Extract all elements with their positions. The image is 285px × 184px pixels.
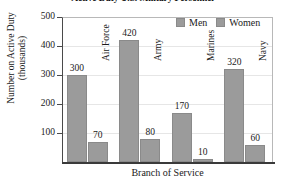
bar-army-women[interactable] <box>140 139 160 162</box>
category-label-air-force: Air Force <box>101 24 111 61</box>
chart-title: Active Duty U.S. Military Personnel <box>0 0 285 3</box>
bars-layer <box>63 17 273 162</box>
bar-navy-men[interactable] <box>224 69 244 162</box>
category-label-army: Army <box>153 39 163 61</box>
value-label-army-men: 420 <box>122 28 136 38</box>
legend-item-women[interactable]: Women <box>216 17 260 28</box>
legend-label-men: Men <box>189 17 207 28</box>
chart-figure: Active Duty U.S. Military Personnel Numb… <box>0 0 285 184</box>
y-tick-label: 500 <box>0 11 62 22</box>
bar-air-force-women[interactable] <box>88 142 108 162</box>
legend-label-women: Women <box>229 17 260 28</box>
bar-marines-men[interactable] <box>172 113 192 162</box>
category-label-navy: Navy <box>258 40 268 61</box>
bar-army-men[interactable] <box>119 40 139 162</box>
value-label-marines-men: 170 <box>175 101 189 111</box>
bar-marines-women[interactable] <box>193 159 213 162</box>
y-tick-value: 200 <box>41 98 62 108</box>
value-label-air-force-women: 70 <box>93 130 103 140</box>
value-label-air-force-men: 300 <box>70 63 84 73</box>
legend-swatch-women <box>216 18 225 27</box>
y-tick-value: 500 <box>41 11 62 21</box>
value-label-navy-men: 320 <box>227 57 241 67</box>
y-tick-label: 200 <box>0 98 62 109</box>
x-axis-line <box>62 162 275 164</box>
chart-legend: Men Women <box>176 17 260 28</box>
value-label-army-women: 80 <box>146 127 156 137</box>
y-tick-value: 300 <box>41 69 62 79</box>
legend-swatch-men <box>176 18 185 27</box>
value-label-navy-women: 60 <box>251 133 261 143</box>
y-tick-label: 300 <box>0 69 62 80</box>
y-tick-value: 400 <box>41 40 62 50</box>
y-tick-label: 100 <box>0 127 62 138</box>
x-axis-title: Branch of Service <box>62 167 273 178</box>
legend-item-men[interactable]: Men <box>176 17 207 28</box>
y-tick-value: 100 <box>41 127 62 137</box>
value-label-marines-women: 10 <box>198 147 208 157</box>
category-label-marines: Marines <box>206 30 216 61</box>
y-tick-label: 400 <box>0 40 62 51</box>
bar-air-force-men[interactable] <box>67 75 87 162</box>
y-axis-title-line1: Number on Active Duty <box>6 12 16 104</box>
bar-navy-women[interactable] <box>245 145 265 162</box>
